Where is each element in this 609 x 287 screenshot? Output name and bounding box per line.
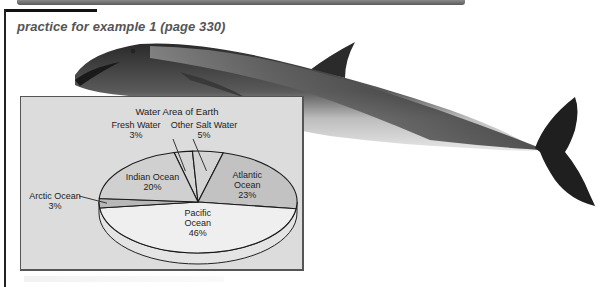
pie-label-arctic-ocean: Arctic Ocean3% bbox=[29, 191, 81, 211]
practice-heading: practice for example 1 (page 330) bbox=[17, 19, 226, 34]
pie-label-fresh-water: Fresh Water3% bbox=[111, 120, 160, 140]
chart-title: Water Area of Earth bbox=[135, 106, 218, 117]
faded-caption bbox=[24, 276, 224, 282]
pie-chart-panel: Water Area of Earth Fresh Water3%Other S… bbox=[20, 96, 304, 271]
pie-label-other-salt-water: Other Salt Water5% bbox=[171, 120, 238, 140]
pie-chart: Water Area of Earth Fresh Water3%Other S… bbox=[21, 97, 303, 270]
